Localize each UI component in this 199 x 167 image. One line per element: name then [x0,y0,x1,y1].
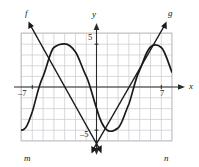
curve-label-f: f [25,9,28,18]
x-tick-label-neg7: –7 [18,89,27,98]
y-tick-label-pos5: 5 [88,33,92,42]
curve-label-g: g [168,9,173,18]
x-tick-label-pos7: 7 [160,89,164,98]
curve-label-m: m [24,154,31,163]
curve-label-n: n [164,154,169,163]
axis-label-y: y [92,10,96,19]
axis-label-x: x [189,82,193,91]
graph-canvas [0,0,199,167]
y-tick-label-neg5: –5 [80,130,89,139]
graph-figure: f g m n x y –7 7 5 –5 [0,0,199,167]
